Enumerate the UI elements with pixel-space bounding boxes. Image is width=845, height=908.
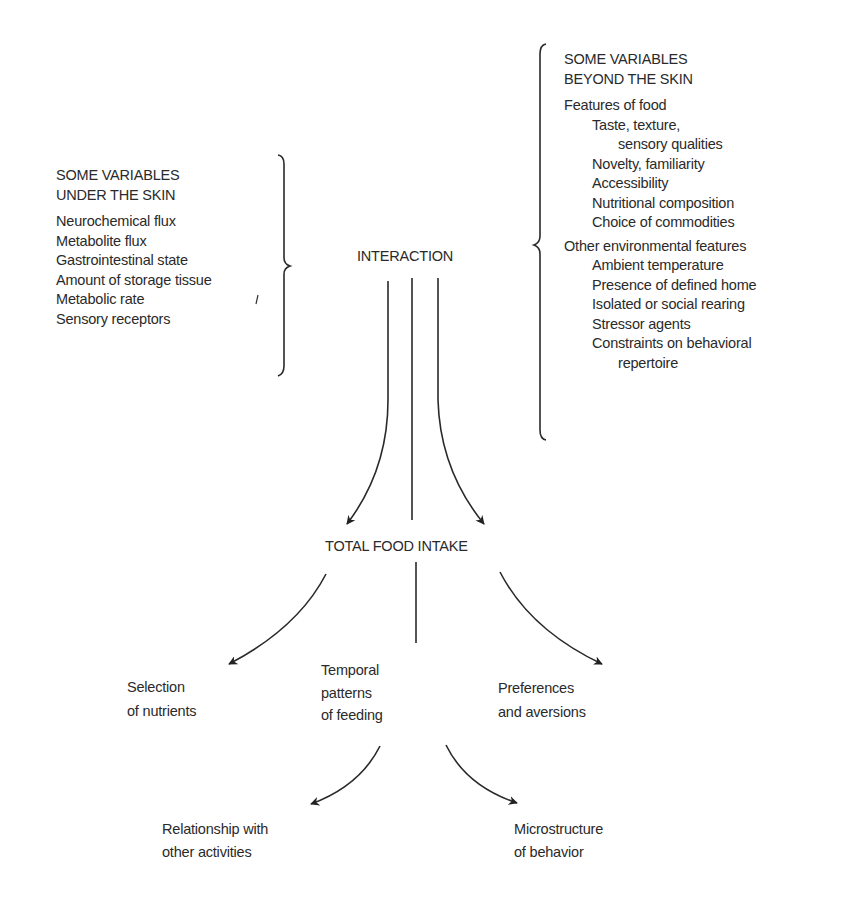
under-skin-brace	[278, 155, 290, 376]
arrow-to-selection	[229, 574, 326, 664]
list-item: Choice of commodities	[564, 213, 756, 233]
node-relationship-with-other-activities: Relationship with other activities	[162, 820, 268, 862]
node-line: patterns	[321, 684, 383, 704]
list-item: Neurochemical flux	[56, 212, 212, 232]
arrow-to-microstructure	[446, 745, 517, 803]
beyond-skin-list: SOME VARIABLES BEYOND THE SKIN Features …	[564, 50, 756, 373]
node-line: and aversions	[498, 703, 586, 723]
list-item: Nutritional composition	[564, 194, 756, 214]
list-item: Metabolic rate	[56, 290, 212, 310]
heading-line: SOME VARIABLES	[564, 50, 756, 70]
list-item: Gastrointestinal state	[56, 251, 212, 271]
group-title-other-environmental-features: Other environmental features	[564, 237, 756, 257]
list-item: Taste, texture,	[564, 116, 756, 136]
list-item: repertoire	[564, 354, 756, 374]
list-item: Amount of storage tissue	[56, 271, 212, 291]
arrow-to-preferences	[500, 572, 602, 664]
heading-line: BEYOND THE SKIN	[564, 70, 756, 90]
node-line: Preferences	[498, 679, 586, 699]
node-line: Relationship with	[162, 820, 268, 840]
group-title-features-of-food: Features of food	[564, 96, 756, 116]
node-total-food-intake: TOTAL FOOD INTAKE	[325, 537, 468, 556]
heading-line: SOME VARIABLES	[56, 166, 212, 186]
node-line: of behavior	[514, 843, 603, 863]
stray-tick	[256, 295, 258, 304]
node-line: of feeding	[321, 706, 383, 726]
beyond-skin-brace	[534, 44, 546, 440]
node-line: Temporal	[321, 661, 383, 681]
node-line: Microstructure	[514, 820, 603, 840]
node-selection-of-nutrients: Selection of nutrients	[127, 678, 196, 721]
node-line: other activities	[162, 843, 268, 863]
node-preferences-and-aversions: Preferences and aversions	[498, 679, 586, 722]
list-item: Stressor agents	[564, 315, 756, 335]
list-item: Ambient temperature	[564, 256, 756, 276]
heading-line: UNDER THE SKIN	[56, 186, 212, 206]
list-item: Accessibility	[564, 174, 756, 194]
list-item: Presence of defined home	[564, 276, 756, 296]
node-line: of nutrients	[127, 702, 196, 722]
arrow-interaction-left	[347, 281, 388, 524]
node-temporal-patterns: Temporal patterns of feeding	[321, 661, 383, 726]
under-skin-list: SOME VARIABLES UNDER THE SKIN Neurochemi…	[56, 166, 212, 329]
list-item: Isolated or social rearing	[564, 295, 756, 315]
list-item: sensory qualities	[564, 135, 756, 155]
list-item: Metabolite flux	[56, 232, 212, 252]
list-item: Constraints on behavioral	[564, 334, 756, 354]
arrow-interaction-right	[438, 278, 484, 524]
arrow-to-relationship	[311, 746, 380, 804]
node-line: Selection	[127, 678, 196, 698]
node-interaction: INTERACTION	[357, 247, 453, 266]
node-microstructure-of-behavior: Microstructure of behavior	[514, 820, 603, 862]
list-item: Novelty, familiarity	[564, 155, 756, 175]
list-item: Sensory receptors	[56, 310, 212, 330]
